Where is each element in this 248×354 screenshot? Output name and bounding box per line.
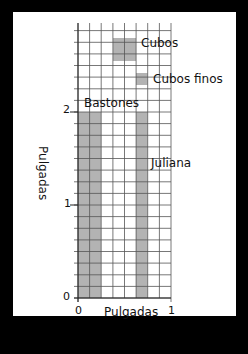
x-axis-label: Pulgadas [104, 306, 158, 318]
label-cubos: Cubos [141, 37, 178, 49]
y-tick-2: 2 [63, 104, 70, 115]
x-tick-0: 0 [75, 305, 82, 316]
y-tick-1: 1 [64, 198, 71, 209]
x-tick-1: 1 [168, 305, 175, 316]
label-cubos-finos: Cubos finos [153, 73, 223, 85]
label-juliana: Juliana [151, 157, 191, 169]
y-tick-0: 0 [63, 291, 70, 302]
y-axis-label: Pulgadas [37, 146, 49, 200]
label-bastones: Bastones [84, 97, 139, 109]
cubos-finos-region [136, 73, 148, 85]
